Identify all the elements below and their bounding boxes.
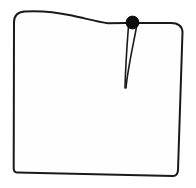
pattern-drawing-svg xyxy=(0,0,196,188)
dart-point-marker-icon xyxy=(126,16,139,29)
panel-outline xyxy=(14,11,183,176)
figure-canvas xyxy=(0,0,196,188)
